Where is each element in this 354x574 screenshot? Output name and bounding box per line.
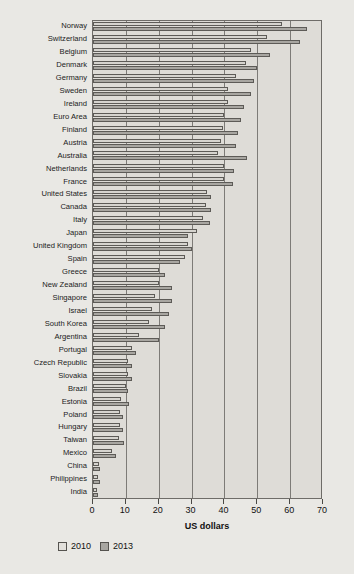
legend-item-2010: 2010 xyxy=(58,541,91,551)
bar-group xyxy=(93,189,321,202)
bar-2013 xyxy=(93,53,270,57)
bar-2010 xyxy=(93,436,119,440)
y-axis-label: United Kingdom xyxy=(0,242,87,250)
bar-group xyxy=(93,86,321,99)
bar-group xyxy=(93,163,321,176)
bar-2010 xyxy=(93,397,121,401)
bar-2010 xyxy=(93,423,120,427)
y-axis-label: Ireland xyxy=(0,100,87,108)
y-axis-label: Czech Republic xyxy=(0,359,87,367)
bar-2010 xyxy=(93,164,224,168)
bar-2013 xyxy=(93,441,124,445)
bar-2010 xyxy=(93,35,267,39)
bar-2013 xyxy=(93,27,307,31)
bar-2013 xyxy=(93,221,210,225)
bar-2013 xyxy=(93,247,192,251)
y-axis-label: Canada xyxy=(0,203,87,211)
y-axis-label: Germany xyxy=(0,74,87,82)
bar-group xyxy=(93,215,321,228)
bar-2013 xyxy=(93,299,172,303)
bar-2010 xyxy=(93,126,223,130)
y-axis-label: Brazil xyxy=(0,385,87,393)
y-axis-label: Finland xyxy=(0,126,87,134)
bar-group xyxy=(93,176,321,189)
bar-2013 xyxy=(93,40,300,44)
bar-2010 xyxy=(93,449,112,453)
bar-group xyxy=(93,202,321,215)
y-axis-label: Switzerland xyxy=(0,35,87,43)
x-tick-40 xyxy=(223,499,224,504)
bar-2013 xyxy=(93,273,165,277)
y-axis-category-labels: NorwaySwitzerlandBelgiumDenmarkGermanySw… xyxy=(0,20,90,499)
bar-2010 xyxy=(93,384,126,388)
y-axis-label: Netherlands xyxy=(0,165,87,173)
bar-2010 xyxy=(93,320,149,324)
bar-2010 xyxy=(93,307,152,311)
bar-group xyxy=(93,73,321,86)
y-axis-label: South Korea xyxy=(0,320,87,328)
legend-label-2013: 2013 xyxy=(113,541,133,551)
bar-group xyxy=(93,112,321,125)
x-tick-20 xyxy=(158,499,159,504)
y-axis-label: Israel xyxy=(0,307,87,315)
bar-2010 xyxy=(93,203,206,207)
bar-2013 xyxy=(93,208,211,212)
bar-2013 xyxy=(93,169,234,173)
bar-2013 xyxy=(93,312,169,316)
bar-2013 xyxy=(93,454,116,458)
x-tick-label-20: 20 xyxy=(153,505,163,515)
bar-2013 xyxy=(93,234,188,238)
x-tick-label-50: 50 xyxy=(251,505,261,515)
bar-2013 xyxy=(93,415,123,419)
bar-2013 xyxy=(93,493,98,497)
bar-2010 xyxy=(93,359,128,363)
bar-group xyxy=(93,396,321,409)
bar-2010 xyxy=(93,113,224,117)
y-axis-label: Belgium xyxy=(0,48,87,56)
x-tick-label-60: 60 xyxy=(284,505,294,515)
bar-2013 xyxy=(93,377,132,381)
bar-group xyxy=(93,254,321,267)
y-axis-label: Argentina xyxy=(0,333,87,341)
y-axis-label: New Zealand xyxy=(0,281,87,289)
bar-group xyxy=(93,138,321,151)
y-axis-label: Poland xyxy=(0,411,87,419)
bar-2013 xyxy=(93,428,123,432)
bar-group xyxy=(93,319,321,332)
y-axis-label: France xyxy=(0,178,87,186)
bar-2013 xyxy=(93,182,233,186)
bar-2010 xyxy=(93,139,221,143)
bar-2013 xyxy=(93,144,236,148)
bar-2013 xyxy=(93,79,254,83)
bar-group xyxy=(93,422,321,435)
bar-group xyxy=(93,461,321,474)
bar-2013 xyxy=(93,364,132,368)
chart-figure: NorwaySwitzerlandBelgiumDenmarkGermanySw… xyxy=(0,0,354,574)
plot-wrapper xyxy=(92,20,322,499)
bar-2013 xyxy=(93,66,257,70)
legend-swatch-2013-icon xyxy=(100,542,109,551)
y-axis-label: United States xyxy=(0,190,87,198)
y-axis-label: Euro Area xyxy=(0,113,87,121)
y-axis-label: China xyxy=(0,462,87,470)
plot-area xyxy=(92,20,322,499)
bar-group xyxy=(93,306,321,319)
bar-group xyxy=(93,267,321,280)
x-tick-30 xyxy=(191,499,192,504)
bar-2010 xyxy=(93,488,97,492)
bar-group xyxy=(93,125,321,138)
bar-2010 xyxy=(93,87,228,91)
x-axis-title: US dollars xyxy=(92,521,322,531)
bar-2010 xyxy=(93,74,236,78)
bar-2010 xyxy=(93,229,197,233)
bar-2010 xyxy=(93,475,98,479)
bar-group xyxy=(93,448,321,461)
bar-2013 xyxy=(93,260,180,264)
bar-2013 xyxy=(93,389,128,393)
bar-group xyxy=(93,345,321,358)
bar-2010 xyxy=(93,100,228,104)
x-tick-70 xyxy=(322,499,323,504)
bar-2010 xyxy=(93,333,139,337)
bar-group xyxy=(93,332,321,345)
bar-2013 xyxy=(93,118,241,122)
